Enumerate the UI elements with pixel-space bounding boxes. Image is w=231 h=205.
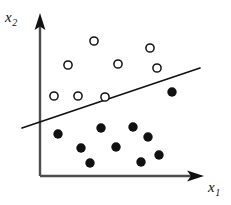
filled-dot-group — [53, 87, 176, 167]
open-circle-point — [64, 61, 72, 69]
open-circle-point — [146, 44, 154, 52]
x2-axis-label-subscript: 2 — [12, 17, 18, 28]
open-circle-point — [90, 37, 98, 45]
x1-axis-label: x1 — [208, 180, 220, 198]
x1-axis-label-base: x — [208, 179, 215, 195]
plot-canvas — [0, 0, 231, 205]
filled-dot-point — [136, 157, 145, 166]
open-circle-point — [153, 64, 161, 72]
filled-dot-point — [96, 123, 105, 132]
filled-dot-point — [111, 142, 120, 151]
filled-dot-point — [85, 158, 94, 167]
x2-axis-label-base: x — [5, 9, 12, 25]
filled-dot-point — [143, 132, 152, 141]
open-circle-point — [50, 92, 58, 100]
open-circle-point — [74, 92, 82, 100]
scatter-plot-figure: x2 x1 — [0, 0, 231, 205]
open-circle-point — [101, 93, 109, 101]
filled-dot-point — [53, 129, 62, 138]
x1-axis-label-subscript: 1 — [215, 187, 221, 198]
open-circle-point — [114, 60, 122, 68]
filled-dot-point — [76, 143, 85, 152]
x2-axis-label: x2 — [5, 10, 17, 28]
open-circle-group — [50, 37, 161, 101]
filled-dot-point — [154, 150, 163, 159]
filled-dot-point — [128, 122, 137, 131]
x2-axis — [35, 13, 46, 176]
x1-axis — [40, 171, 204, 182]
decision-boundary-line — [22, 68, 200, 128]
filled-dot-point — [167, 87, 176, 96]
